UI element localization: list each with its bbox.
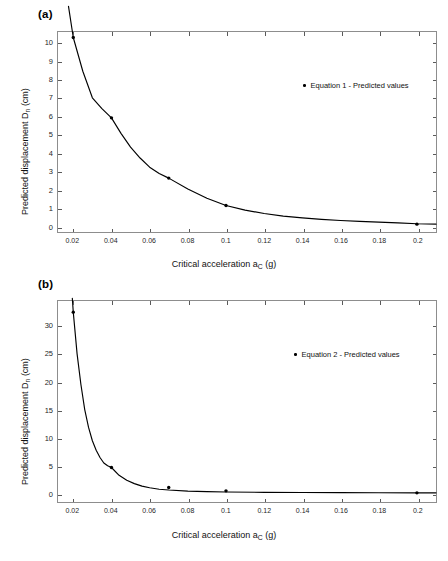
y-axis-tick (58, 209, 62, 210)
y-axis-tick (58, 154, 62, 155)
y-axis-tick (58, 191, 62, 192)
panel-b-y-axis-label: Predicted displacement Dn (cm) (20, 358, 31, 485)
y-axis-tick-label: 10 (37, 38, 53, 47)
x-axis-tick (265, 301, 266, 305)
x-axis-tick-label: 0.2 (413, 507, 423, 514)
y-axis-tick (433, 228, 437, 229)
y-axis-tick (433, 135, 437, 136)
y-axis-label-suffix: (cm) (20, 358, 30, 379)
x-axis-tick (189, 499, 190, 503)
x-axis-tick (227, 229, 228, 233)
y-axis-tick (433, 62, 437, 63)
x-axis-tick (112, 301, 113, 305)
data-point-marker (72, 36, 75, 39)
x-axis-tick (73, 301, 74, 305)
x-axis-tick (265, 32, 266, 36)
x-axis-tick (150, 229, 151, 233)
x-axis-tick (419, 229, 420, 233)
x-axis-tick (73, 32, 74, 36)
y-axis-tick-label: 3 (37, 167, 53, 176)
x-axis-tick (73, 229, 74, 233)
y-axis-tick-label: 9 (37, 56, 53, 65)
panel-a-legend-label: Equation 1 - Predicted values (311, 81, 409, 90)
data-point-marker (415, 222, 418, 225)
x-axis-tick (380, 301, 381, 305)
x-axis-tick-label: 0.02 (66, 507, 80, 514)
x-axis-tick-label: 0.12 (257, 507, 271, 514)
panel-a-plot-area (57, 31, 437, 233)
data-point-marker (110, 116, 113, 119)
y-axis-tick (433, 439, 437, 440)
panel-b-plot-area (57, 300, 437, 503)
y-axis-tick (433, 209, 437, 210)
x-axis-label-prefix: Critical acceleration a (172, 530, 258, 540)
x-axis-tick (380, 499, 381, 503)
data-point-marker (110, 466, 113, 469)
x-axis-tick-label: 0.06 (142, 507, 156, 514)
y-axis-tick-label: 6 (37, 111, 53, 120)
x-axis-tick (112, 499, 113, 503)
x-axis-tick (304, 229, 305, 233)
panel-b-legend-label: Equation 2 - Predicted values (302, 350, 400, 359)
y-axis-tick (58, 98, 62, 99)
y-axis-label-prefix: Predicted displacement D (20, 112, 30, 215)
y-axis-tick (58, 439, 62, 440)
panel-b-legend: Equation 2 - Predicted values (294, 350, 400, 359)
data-point-marker (167, 486, 170, 489)
panel-a-x-axis-label: Critical acceleration aC (g) (0, 259, 448, 270)
x-axis-tick (227, 32, 228, 36)
y-axis-tick (58, 411, 62, 412)
y-axis-tick (58, 383, 62, 384)
legend-marker-icon (303, 84, 306, 87)
y-axis-tick (433, 154, 437, 155)
x-axis-tick-label: 0.02 (66, 237, 80, 244)
y-axis-tick-label: 5 (37, 130, 53, 139)
panel-b-plot-svg (58, 301, 436, 502)
panel-a-plot-svg (58, 32, 436, 232)
chart-panel-b: (b) Predicted displacement Dn (cm) Equat… (0, 272, 448, 561)
y-axis-tick-label: 0 (37, 222, 53, 231)
panel-a-legend: Equation 1 - Predicted values (303, 81, 409, 90)
fitted-curve (72, 298, 436, 493)
figure-root: (a) Predicted displacement Dn (cm) Equat… (0, 0, 448, 561)
x-axis-tick (73, 499, 74, 503)
y-axis-tick (58, 135, 62, 136)
x-axis-tick-label: 0.08 (181, 237, 195, 244)
x-axis-tick-label: 0.14 (296, 507, 310, 514)
x-axis-tick-label: 0.08 (181, 507, 195, 514)
panel-b-label: (b) (38, 278, 53, 290)
x-axis-tick (189, 32, 190, 36)
x-axis-tick-label: 0.1 (221, 237, 231, 244)
y-axis-tick (58, 43, 62, 44)
y-axis-tick (433, 354, 437, 355)
x-axis-tick-label: 0.2 (413, 237, 423, 244)
legend-marker-icon (294, 353, 297, 356)
y-axis-tick (58, 228, 62, 229)
y-axis-label-subscript: n (24, 379, 31, 383)
y-axis-tick (433, 172, 437, 173)
x-axis-tick-label: 0.18 (373, 507, 387, 514)
y-axis-tick-label: 5 (37, 461, 53, 470)
y-axis-tick-label: 30 (37, 321, 53, 330)
x-axis-tick (380, 32, 381, 36)
x-axis-tick (304, 301, 305, 305)
y-axis-tick-label: 7 (37, 93, 53, 102)
y-axis-tick-label: 1 (37, 204, 53, 213)
x-axis-tick (265, 499, 266, 503)
x-axis-tick (150, 499, 151, 503)
x-axis-tick-label: 0.18 (373, 237, 387, 244)
y-axis-tick (433, 191, 437, 192)
chart-panel-a: (a) Predicted displacement Dn (cm) Equat… (0, 0, 448, 280)
y-axis-label-prefix: Predicted displacement D (20, 382, 30, 485)
y-axis-tick (433, 495, 437, 496)
data-point-marker (224, 489, 227, 492)
y-axis-tick (433, 98, 437, 99)
y-axis-tick (433, 117, 437, 118)
y-axis-tick (433, 326, 437, 327)
y-axis-tick (58, 326, 62, 327)
fitted-curve (69, 6, 436, 224)
y-axis-tick (433, 80, 437, 81)
data-point-marker (72, 310, 75, 313)
panel-b-x-axis-label: Critical acceleration aC (g) (0, 530, 448, 541)
x-axis-tick (304, 499, 305, 503)
